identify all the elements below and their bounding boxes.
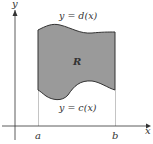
region-diagram: y x a b y = d(x) y = c(x) R [0, 0, 153, 144]
tick-label-a: a [35, 130, 41, 141]
region-label: R [72, 56, 81, 67]
y-axis-arrow-icon [13, 10, 18, 16]
x-axis-label: x [145, 125, 151, 136]
bottom-curve-label: y = c(x) [58, 102, 97, 113]
top-curve-label: y = d(x) [58, 10, 98, 21]
tick-label-b: b [112, 130, 118, 141]
y-axis-label: y [11, 0, 18, 9]
